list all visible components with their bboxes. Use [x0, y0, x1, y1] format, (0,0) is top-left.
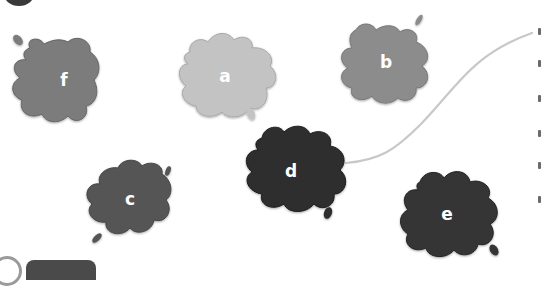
splat-f[interactable]	[11, 33, 99, 122]
splat-label-d: d	[285, 163, 297, 180]
splat-label-e: e	[441, 206, 453, 223]
splat-label-f: f	[60, 72, 67, 89]
splat-label-b: b	[380, 54, 392, 71]
splat-label-c: c	[125, 191, 135, 208]
splat-label-a: a	[219, 68, 230, 85]
section-badge	[0, 256, 96, 276]
cut-off-right-margin-text	[538, 20, 544, 220]
section-title-tab	[26, 260, 96, 280]
section-number-ring	[0, 256, 22, 286]
